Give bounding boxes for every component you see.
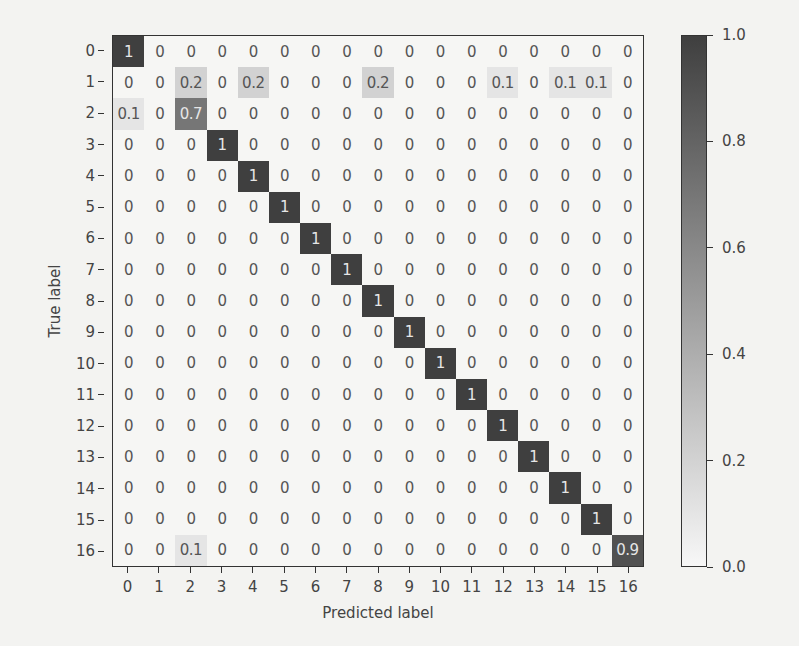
matrix-cell: 0	[518, 535, 549, 566]
matrix-cell: 0	[394, 98, 425, 129]
matrix-cell: 0	[425, 535, 456, 566]
tick-mark	[127, 567, 128, 573]
x-tick-label: 7	[342, 578, 352, 596]
matrix-cell: 1	[456, 379, 487, 410]
matrix-cell: 1	[238, 161, 269, 192]
matrix-cell: 0	[425, 223, 456, 254]
y-tick-label: 11	[76, 386, 95, 404]
matrix-cell: 0	[612, 98, 643, 129]
tick-mark	[284, 567, 285, 573]
matrix-cell: 0	[207, 192, 238, 223]
tick-mark	[503, 567, 504, 573]
matrix-cell: 0	[487, 348, 518, 379]
matrix-cell: 0	[394, 348, 425, 379]
matrix-cell: 0	[238, 410, 269, 441]
matrix-cell: 0	[362, 36, 393, 67]
matrix-cell: 0	[300, 98, 331, 129]
tick-mark	[98, 301, 104, 302]
matrix-cell: 0	[518, 161, 549, 192]
matrix-cell: 0	[144, 535, 175, 566]
matrix-cell: 0	[331, 192, 362, 223]
tick-mark	[98, 363, 104, 364]
colorbar-tick-label: 0.0	[722, 558, 746, 576]
tick-mark	[440, 567, 441, 573]
matrix-cell: 0	[144, 317, 175, 348]
y-tick-label: 2	[85, 104, 95, 122]
matrix-cell: 0	[269, 67, 300, 98]
matrix-cell: 0	[144, 410, 175, 441]
matrix-cell: 0	[300, 67, 331, 98]
x-axis-label: Predicted label	[112, 604, 644, 622]
matrix-cell: 0	[581, 317, 612, 348]
tick-mark	[98, 457, 104, 458]
matrix-cell: 0	[394, 504, 425, 535]
matrix-cell: 0	[207, 67, 238, 98]
matrix-cell: 0	[144, 285, 175, 316]
matrix-cell: 0	[549, 98, 580, 129]
matrix-cell: 0	[144, 254, 175, 285]
matrix-cell: 0	[487, 504, 518, 535]
matrix-cell: 0	[581, 130, 612, 161]
matrix-cell: 0	[362, 472, 393, 503]
matrix-cell: 0.1	[175, 535, 206, 566]
matrix-cell: 0	[144, 223, 175, 254]
matrix-cell: 0	[331, 36, 362, 67]
matrix-cell: 0	[207, 348, 238, 379]
matrix-cell: 0	[175, 441, 206, 472]
y-tick-label: 6	[85, 229, 95, 247]
matrix-cell: 0	[175, 504, 206, 535]
matrix-cell: 0	[612, 410, 643, 441]
matrix-cell: 0	[175, 348, 206, 379]
matrix-cell: 0	[238, 348, 269, 379]
y-tick-label: 3	[85, 136, 95, 154]
matrix-cell: 0	[518, 192, 549, 223]
matrix-cell: 0	[331, 535, 362, 566]
matrix-cell: 0	[487, 36, 518, 67]
matrix-cell: 0.1	[487, 67, 518, 98]
matrix-cell: 0	[518, 36, 549, 67]
matrix-cell: 0	[300, 285, 331, 316]
matrix-cell: 0	[238, 504, 269, 535]
matrix-cell: 0	[238, 36, 269, 67]
matrix-cell: 0	[487, 130, 518, 161]
tick-mark	[252, 567, 253, 573]
matrix-cell: 0	[425, 410, 456, 441]
matrix-cell: 0	[518, 379, 549, 410]
matrix-cell: 0	[518, 472, 549, 503]
colorbar	[681, 35, 707, 567]
matrix-cell: 0	[362, 98, 393, 129]
matrix-cell: 0.7	[175, 98, 206, 129]
matrix-cell: 0	[113, 441, 144, 472]
matrix-cell: 0	[425, 379, 456, 410]
matrix-cell: 0	[175, 223, 206, 254]
matrix-cell: 0	[300, 535, 331, 566]
y-tick: 4	[0, 166, 104, 186]
matrix-cell: 0	[456, 223, 487, 254]
matrix-cell: 1	[425, 348, 456, 379]
matrix-cell: 0	[269, 410, 300, 441]
matrix-cell: 0	[394, 441, 425, 472]
y-tick-label: 0	[85, 42, 95, 60]
y-tick-label: 9	[85, 323, 95, 341]
matrix-cell: 0	[612, 348, 643, 379]
matrix-cell: 0	[581, 441, 612, 472]
matrix-cell: 0	[518, 254, 549, 285]
matrix-cell: 0	[394, 285, 425, 316]
matrix-cell: 0	[238, 98, 269, 129]
matrix-cell: 1	[113, 36, 144, 67]
matrix-cell: 0	[518, 67, 549, 98]
matrix-cell: 0	[300, 379, 331, 410]
y-tick-label: 4	[85, 167, 95, 185]
matrix-cell: 0	[144, 98, 175, 129]
matrix-cell: 0	[175, 410, 206, 441]
matrix-cell: 0	[549, 410, 580, 441]
matrix-cell: 0	[269, 535, 300, 566]
matrix-cell: 0	[456, 410, 487, 441]
matrix-cell: 0	[331, 223, 362, 254]
matrix-cell: 0	[269, 472, 300, 503]
matrix-cell: 0	[394, 472, 425, 503]
matrix-cell: 0	[612, 285, 643, 316]
matrix-cell: 0	[113, 472, 144, 503]
x-tick: 2	[175, 567, 205, 596]
x-tick: 0	[113, 567, 143, 596]
